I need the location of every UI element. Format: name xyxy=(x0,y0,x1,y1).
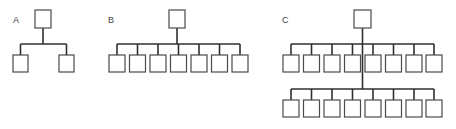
root-node-box xyxy=(169,10,185,28)
child-node-box xyxy=(304,55,320,72)
child-node-box xyxy=(406,100,422,117)
diagram-b: B xyxy=(108,10,248,72)
child-node-box xyxy=(426,100,442,117)
diagram-label-a: A xyxy=(13,15,19,25)
child-node-box xyxy=(171,55,187,72)
child-node-box xyxy=(283,55,299,72)
child-node-box xyxy=(406,55,422,72)
child-node-box xyxy=(232,55,248,72)
child-node-box xyxy=(324,100,340,117)
child-node-box xyxy=(386,55,402,72)
child-node-box xyxy=(365,55,381,72)
child-node-box xyxy=(304,100,320,117)
child-node-box xyxy=(345,55,361,72)
diagram-c: C xyxy=(282,10,442,117)
child-node-box xyxy=(345,100,361,117)
org-structure-diagrams: A B C xyxy=(0,0,456,129)
child-node-box xyxy=(283,100,299,117)
child-node-box xyxy=(191,55,207,72)
diagram-a: A xyxy=(13,10,74,72)
diagram-label-c: C xyxy=(282,15,289,25)
child-node-box xyxy=(150,55,166,72)
child-node-box xyxy=(386,100,402,117)
child-node-box xyxy=(13,55,28,72)
child-node-box xyxy=(59,55,74,72)
child-node-box xyxy=(212,55,228,72)
child-node-box xyxy=(426,55,442,72)
child-node-box xyxy=(324,55,340,72)
root-node-box xyxy=(354,10,371,28)
child-node-box xyxy=(365,100,381,117)
child-node-box xyxy=(109,55,125,72)
diagram-label-b: B xyxy=(108,15,114,25)
root-node-box xyxy=(35,10,51,28)
child-node-box xyxy=(130,55,146,72)
